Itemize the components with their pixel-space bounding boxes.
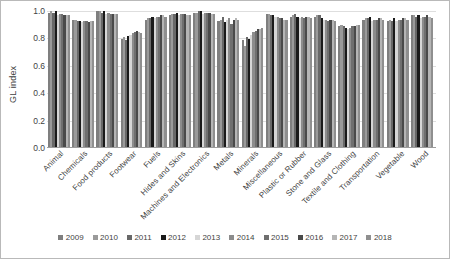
bar	[189, 15, 191, 147]
legend-item[interactable]: 2011	[127, 233, 152, 242]
bar	[92, 21, 94, 147]
legend-swatch	[93, 235, 98, 240]
legend-swatch	[332, 235, 337, 240]
legend-label: 2018	[374, 233, 392, 242]
bar	[213, 14, 215, 147]
bar-group	[48, 11, 72, 147]
y-axis-tick-label: 0.8	[19, 33, 45, 43]
bar-group	[121, 11, 145, 147]
legend-item[interactable]: 2016	[298, 233, 323, 242]
legend-label: 2012	[168, 233, 186, 242]
bar-group	[387, 11, 411, 147]
bar-group	[362, 11, 386, 147]
legend-swatch	[161, 235, 166, 240]
legend-label: 2017	[340, 233, 358, 242]
legend-item[interactable]: 2017	[332, 233, 357, 242]
legend-item[interactable]: 2009	[58, 233, 83, 242]
legend-label: 2013	[202, 233, 220, 242]
legend-swatch	[264, 235, 269, 240]
bar	[68, 15, 70, 147]
bar-group	[217, 11, 241, 147]
legend-item[interactable]: 2012	[161, 233, 186, 242]
bar	[116, 14, 118, 147]
bar	[164, 17, 166, 147]
y-axis-tick-label: 0.2	[19, 116, 45, 126]
x-axis-label: Fuels	[142, 149, 163, 170]
y-axis-tick-labels: 0.00.20.40.60.81.0	[19, 11, 45, 148]
legend-item[interactable]: 2018	[366, 233, 391, 242]
y-axis-tick-label: 0.6	[19, 61, 45, 71]
legend-item[interactable]: 2013	[195, 233, 220, 242]
legend-swatch	[366, 235, 371, 240]
legend-label: 2010	[100, 233, 118, 242]
legend-label: 2009	[66, 233, 84, 242]
y-axis-tick-label: 0.4	[19, 88, 45, 98]
legend-label: 2015	[271, 233, 289, 242]
bar-group	[242, 11, 266, 147]
y-axis-tick-label: 1.0	[19, 6, 45, 16]
legend-item[interactable]: 2014	[229, 233, 254, 242]
bar	[431, 18, 433, 147]
bar	[358, 25, 360, 147]
bar-group	[266, 11, 290, 147]
plot-area	[47, 11, 436, 148]
legend-label: 2016	[305, 233, 323, 242]
bar	[406, 20, 408, 147]
legend-item[interactable]: 2015	[264, 233, 289, 242]
bar	[261, 28, 263, 147]
bar	[382, 20, 384, 147]
x-axis-label: Wood	[409, 149, 430, 170]
bar	[285, 20, 287, 147]
bar-group	[145, 11, 169, 147]
bar-group	[96, 11, 120, 147]
chart-figure: GL index 0.00.20.40.60.81.0 AnimalChemic…	[0, 0, 450, 259]
bar-group	[193, 11, 217, 147]
bar	[140, 33, 142, 147]
bar-group	[169, 11, 193, 147]
bar	[334, 21, 336, 147]
legend-label: 2011	[134, 233, 151, 242]
bar-group	[72, 11, 96, 147]
bar-groups	[47, 11, 436, 147]
y-axis-tick-label: 0.0	[19, 143, 45, 153]
legend-label: 2014	[237, 233, 255, 242]
y-axis-title: GL index	[6, 39, 20, 129]
x-axis-category-labels: AnimalChemicalsFood productsFootwearFuel…	[47, 149, 436, 219]
bar-group	[290, 11, 314, 147]
bar-group	[314, 11, 338, 147]
legend-swatch	[58, 235, 63, 240]
legend-swatch	[298, 235, 303, 240]
legend-swatch	[127, 235, 132, 240]
bar-group	[338, 11, 362, 147]
legend-swatch	[229, 235, 234, 240]
legend-swatch	[195, 235, 200, 240]
chart-legend: 2009201020112012201320142015201620172018	[1, 233, 449, 242]
legend-item[interactable]: 2010	[93, 233, 118, 242]
bar	[310, 18, 312, 147]
bar	[237, 20, 239, 147]
bar-group	[411, 11, 435, 147]
